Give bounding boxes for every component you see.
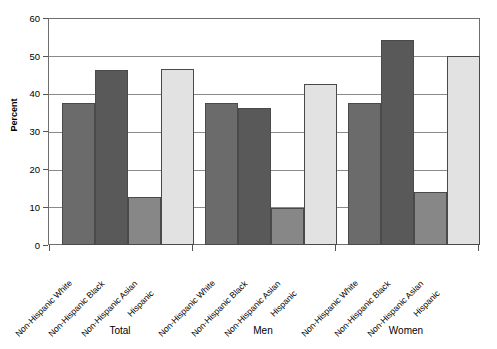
x-label-women-non-hispanic-white: Non-Hispanic White bbox=[300, 279, 360, 339]
bar-series-container bbox=[49, 19, 479, 245]
x-tick-end bbox=[478, 245, 479, 251]
bar-women-non-hispanic-asian bbox=[414, 192, 447, 245]
bar-men-non-hispanic-asian bbox=[271, 208, 304, 245]
bar-women-non-hispanic-white bbox=[348, 103, 381, 245]
group-label-total: Total bbox=[109, 325, 130, 336]
x-label-men-non-hispanic-white: Non-Hispanic White bbox=[157, 279, 217, 339]
bar-men-non-hispanic-white bbox=[205, 103, 238, 245]
bar-total-non-hispanic-black bbox=[95, 70, 128, 245]
bar-women-non-hispanic-black bbox=[381, 40, 414, 245]
y-tick-label-60: 60 bbox=[14, 13, 40, 24]
bar-men-hispanic bbox=[304, 84, 337, 245]
y-tick-mark-0 bbox=[43, 245, 48, 246]
y-tick-label-30: 30 bbox=[14, 126, 40, 137]
group-label-men: Men bbox=[253, 325, 272, 336]
bar-men-non-hispanic-black bbox=[238, 108, 271, 245]
group-label-women: Women bbox=[389, 325, 423, 336]
y-tick-label-0: 0 bbox=[14, 240, 40, 251]
x-tick-start bbox=[49, 245, 50, 251]
bar-chart: Percent 60 50 40 30 20 10 0 bbox=[0, 0, 497, 349]
x-tick-total-men bbox=[192, 245, 193, 251]
bar-women-hispanic bbox=[447, 56, 480, 245]
bar-total-non-hispanic-asian bbox=[128, 197, 161, 245]
bar-total-non-hispanic-white bbox=[62, 103, 95, 245]
bar-total-hispanic bbox=[161, 69, 194, 245]
y-tick-label-40: 40 bbox=[14, 88, 40, 99]
y-tick-label-10: 10 bbox=[14, 202, 40, 213]
y-tick-label-20: 20 bbox=[14, 164, 40, 175]
x-label-total-non-hispanic-white: Non-Hispanic White bbox=[14, 279, 74, 339]
x-tick-men-women bbox=[335, 245, 336, 251]
y-tick-label-50: 50 bbox=[14, 51, 40, 62]
